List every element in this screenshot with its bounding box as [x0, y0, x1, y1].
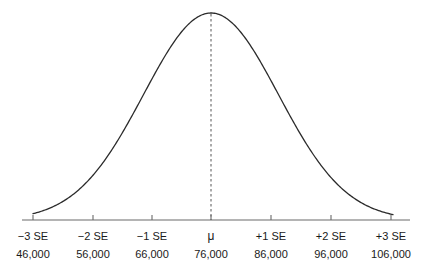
normal-distribution-figure: −3 SE−2 SE−1 SEμ+1 SE+2 SE+3 SE 46,00056…	[0, 0, 424, 277]
bell-curve-path	[33, 13, 393, 215]
distribution-plot	[0, 0, 424, 277]
axis-tick-marks	[33, 215, 391, 220]
